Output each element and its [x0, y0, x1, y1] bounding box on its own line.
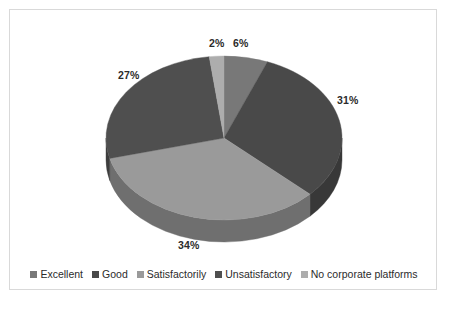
data-label-excellent: 6% [233, 37, 248, 49]
legend-item-label: No corporate platforms [311, 269, 418, 280]
legend-item-label: Good [102, 269, 128, 280]
legend-swatch-icon [301, 271, 308, 278]
chart-frame: 6% 31% 34% 27% 2% ExcellentGoodSatisfact… [9, 9, 437, 290]
legend-item-label: Excellent [40, 269, 83, 280]
legend-item[interactable]: Excellent [30, 269, 83, 280]
legend-item-label: Satisfactorily [147, 269, 207, 280]
legend-item[interactable]: No corporate platforms [301, 269, 418, 280]
legend-item[interactable]: Unsatisfactory [215, 269, 292, 280]
legend-swatch-icon [30, 271, 37, 278]
legend-swatch-icon [137, 271, 144, 278]
data-label-unsatisfactory: 27% [118, 69, 139, 81]
legend-item-label: Unsatisfactory [225, 269, 292, 280]
legend-swatch-icon [92, 271, 99, 278]
legend-swatch-icon [215, 271, 222, 278]
legend-item[interactable]: Good [92, 269, 128, 280]
data-label-good: 31% [337, 94, 358, 106]
pie-chart-plot-area: 6% 31% 34% 27% 2% [10, 10, 438, 258]
data-label-no-corporate-platforms: 2% [209, 37, 224, 49]
data-label-satisfactorily: 34% [178, 239, 199, 251]
legend-item[interactable]: Satisfactorily [137, 269, 207, 280]
chart-legend: ExcellentGoodSatisfactorilyUnsatisfactor… [10, 259, 438, 290]
